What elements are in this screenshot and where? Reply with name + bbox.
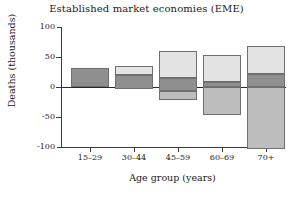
bar-group [203,0,241,201]
bar-segment-dark [247,74,285,87]
y-tick-label-neg100: -100 [27,142,55,151]
y-tick-neg50 [56,117,61,118]
bar-segment-dark [159,78,197,91]
y-tick-label-neg50: -50 [27,112,55,121]
bar-segment-dark [115,75,153,89]
bar-segment-light [159,51,197,77]
bar-segment-mid [247,87,285,149]
bar-segment-light [247,46,285,74]
bar-group [115,0,153,201]
y-axis-cap-bottom [57,147,61,148]
chart-figure: Established market economies (EME) Death… [0,0,293,201]
bar-group [159,0,197,201]
y-tick-label-100: 100 [27,22,55,31]
bar-group [71,0,109,201]
y-tick-0 [56,87,61,88]
y-tick-50 [56,57,61,58]
bar-group [247,0,285,201]
y-axis-title: Deaths (thousands) [6,6,17,116]
bar-segment-mid [203,87,241,114]
y-axis-cap-top [57,27,61,28]
bar-segment-dark [71,68,109,87]
bar-segment-light [115,66,153,75]
bar-segment-mid [159,91,197,101]
y-tick-label-0: 0 [27,82,55,91]
bar-segment-light [203,55,241,82]
y-tick-label-50: 50 [27,52,55,61]
